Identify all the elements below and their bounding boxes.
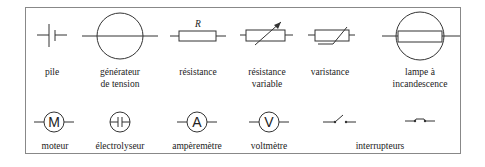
label-generateur-text: générateur de tension — [100, 67, 140, 89]
open-switch-symbol-icon — [322, 112, 357, 128]
ammeter-symbol-text: A — [192, 114, 202, 130]
electrolyzer-symbol-icon — [103, 107, 137, 137]
label-resistance-variable: résistance variable — [248, 66, 285, 90]
voltage-generator-symbol-icon — [80, 12, 160, 62]
label-voltmetre: voltmètre — [251, 140, 287, 152]
motor-symbol-text: M — [48, 114, 60, 130]
label-resistance: résistance — [179, 66, 216, 78]
label-generateur: générateur de tension — [100, 66, 140, 90]
label-amperemetre: ampèremètre — [172, 140, 222, 152]
closed-switch-symbol-icon — [404, 112, 436, 128]
label-resistance-variable-text: résistance variable — [248, 67, 285, 89]
label-lampe-text: lampe à incandescence — [393, 67, 448, 89]
label-varistance: varistance — [311, 66, 350, 78]
incandescent-lamp-symbol-icon — [380, 10, 462, 64]
label-moteur: moteur — [42, 140, 69, 152]
voltmeter-symbol-text: V — [264, 114, 274, 130]
label-lampe: lampe à incandescence — [393, 66, 448, 90]
label-electrolyseur: électrolyseur — [95, 140, 144, 152]
voltmeter-symbol-icon: V — [247, 107, 292, 137]
resistor-symbol-text: R — [195, 18, 201, 30]
pile-symbol-icon — [35, 20, 70, 50]
variable-resistor-symbol-icon — [238, 20, 298, 50]
label-pile: pile — [45, 66, 59, 78]
label-interrupteurs: interrupteurs — [356, 140, 405, 152]
ammeter-symbol-icon: A — [175, 107, 220, 137]
motor-symbol-icon: M — [32, 107, 77, 137]
varistor-symbol-icon — [306, 20, 356, 50]
